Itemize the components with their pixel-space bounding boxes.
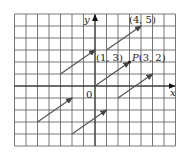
x-axis-label: x xyxy=(170,87,176,98)
origin-label: 0 xyxy=(86,89,92,100)
point-P-coords: (3, 2) xyxy=(139,52,166,63)
y-axis-label: y xyxy=(83,14,90,25)
axes xyxy=(15,15,175,146)
point-4-5-label: (4, 5) xyxy=(129,14,156,25)
point-P-label: P(3, 2) xyxy=(131,52,166,63)
vector-grid-figure: y x 0 (1, 3) (4, 5) P(3, 2) xyxy=(0,0,186,152)
point-P-dot xyxy=(128,60,131,63)
point-1-3-label: (1, 3) xyxy=(96,52,123,63)
